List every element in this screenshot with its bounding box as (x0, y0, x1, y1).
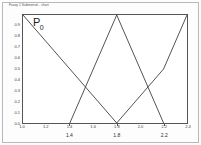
x-minor-tick-label: 1.0 (19, 124, 25, 129)
plot-area (22, 14, 188, 124)
x-major-tick-label: 1.4 (66, 132, 73, 138)
x-axis-minor-tick-labels: 1.01.21.41.61.82.02.22.4 (0, 124, 201, 131)
plot-lines (23, 15, 187, 123)
x-axis-major-tick-labels: 1.41.82.2 (0, 132, 201, 141)
x-major-tick-label: 2.2 (161, 132, 168, 138)
y-tick-label: 0.8 (14, 34, 20, 38)
y-tick-label: 0.9 (14, 23, 20, 27)
series-line (70, 15, 164, 123)
x-minor-tick-label: 2.0 (138, 124, 144, 129)
x-tick-mark (69, 124, 70, 126)
y-tick-label: 0.7 (14, 45, 20, 49)
y-tick-label: 0.3 (14, 89, 20, 93)
x-minor-tick-label: 1.6 (90, 124, 96, 129)
y-tick-label: 0.4 (14, 78, 20, 82)
x-tick-mark (117, 124, 118, 126)
y-tick-label: 0.5 (14, 67, 20, 71)
x-minor-tick-label: 2.4 (185, 124, 191, 129)
y-tick-label: 0.1 (14, 111, 20, 115)
figure-container: Fuzzy 1 Submenuit - chart 0.00.10.20.30.… (0, 0, 201, 145)
y-tick-label: 0.6 (14, 56, 20, 60)
series-line (23, 15, 117, 123)
y-tick-label: 0.2 (14, 100, 20, 104)
series-label-subscript: 0 (40, 24, 44, 31)
series-label-p0: P0 (33, 16, 44, 30)
x-tick-mark (164, 124, 165, 126)
x-minor-tick-label: 1.2 (43, 124, 49, 129)
x-major-tick-label: 1.8 (113, 132, 120, 138)
series-line (117, 15, 187, 123)
